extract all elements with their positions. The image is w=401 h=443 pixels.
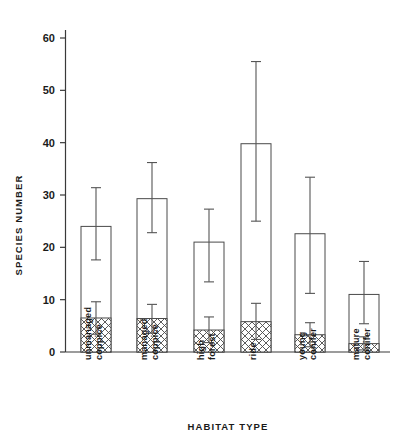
- y-tick-label: 40: [43, 137, 55, 149]
- category-label: coppice: [150, 324, 160, 360]
- y-axis-title: SPECIES NUMBER: [13, 175, 24, 276]
- category-label: conifer: [308, 328, 318, 360]
- y-tick-label: 0: [49, 346, 55, 358]
- y-tick-group: 0102030405060: [43, 32, 66, 358]
- y-tick-label: 60: [43, 32, 55, 44]
- bar-column[interactable]: [241, 62, 271, 352]
- y-tick-label: 30: [43, 189, 55, 201]
- category-label: coppice: [94, 324, 104, 360]
- category-label: managed: [139, 318, 149, 360]
- x-axis-title: HABITAT TYPE: [188, 421, 269, 432]
- category-label: young: [297, 332, 307, 361]
- category-label: conifer: [362, 328, 372, 360]
- category-label: high: [196, 340, 206, 360]
- y-tick-label: 20: [43, 241, 55, 253]
- bar-column[interactable]: [295, 177, 325, 352]
- figure-container: 0102030405060 unmanagedcoppicemanagedcop…: [0, 0, 401, 443]
- y-tick-label: 50: [43, 84, 55, 96]
- category-label: mature: [351, 328, 361, 360]
- y-tick-label: 10: [43, 294, 55, 306]
- bar-column[interactable]: [194, 209, 224, 352]
- species-number-bar-chart: 0102030405060 unmanagedcoppicemanagedcop…: [0, 0, 401, 443]
- category-label: ride: [248, 342, 258, 360]
- category-label: unmanaged: [83, 307, 93, 360]
- bar-group: [81, 62, 379, 352]
- category-label: forest: [207, 333, 217, 360]
